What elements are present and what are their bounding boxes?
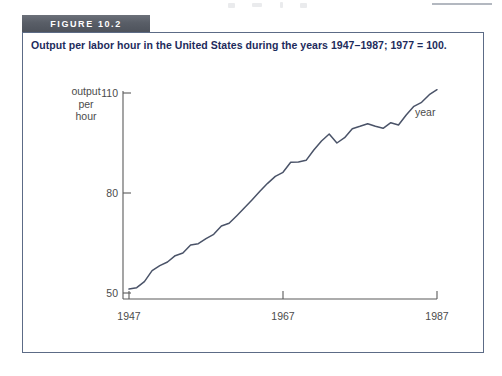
scan-smudge [228,3,235,8]
scan-smudge [252,3,262,7]
data-series-line [129,90,437,289]
chart-plot-area: output per hour 110 80 50 1947 1967 1987… [23,33,485,354]
scan-smudge [280,2,283,8]
chart-svg [23,33,485,354]
scan-artifacts [0,0,502,12]
figure-number-label: FIGURE 10.2 [50,19,122,29]
scan-smudge [300,3,307,8]
figure-container: Output per labor hour in the United Stat… [22,32,484,353]
figure-number-tab: FIGURE 10.2 [22,15,150,32]
scan-rule [432,3,492,5]
